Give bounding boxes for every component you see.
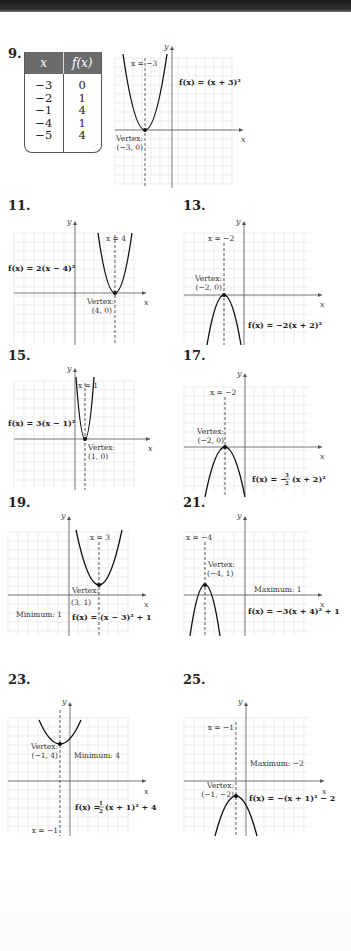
problem-number-25: 25. <box>183 672 206 687</box>
vertex-point <box>143 128 147 132</box>
vertex-coords: (1, 0) <box>88 452 108 461</box>
vertex-label: Vertex: <box>87 443 115 452</box>
vertex-point <box>58 742 62 746</box>
header-fx: f(x) <box>64 52 102 74</box>
graph-problem-11: x = 4 Vertex: (4, 0) f(x) = 2(x − 4)² x … <box>14 225 164 345</box>
maximum-label: Maximum: −2 <box>250 759 304 768</box>
y-axis-label: y <box>163 42 169 51</box>
vertex-label: Vertex: <box>207 560 235 569</box>
table-cell: −3 <box>35 79 52 92</box>
axis-line-label: x = 3 <box>90 533 110 542</box>
svg-text:(x + 1)² + 4: (x + 1)² + 4 <box>105 802 157 812</box>
equation-label: f(x) = 1 2 (x + 1)² + 4 <box>75 800 157 814</box>
minimum-label: Minimum: 1 <box>16 610 62 619</box>
problem-number-23: 23. <box>8 672 31 687</box>
vertex-label: Vertex: <box>194 274 222 283</box>
y-axis-label: y <box>61 697 67 706</box>
table-cell: 4 <box>79 129 86 142</box>
equation-label: f(x) = 3(x − 1)² <box>8 418 76 428</box>
x-axis-label: x <box>144 298 149 307</box>
grid <box>14 381 134 487</box>
y-axis-label: y <box>66 364 72 373</box>
y-axis-label: y <box>236 511 242 520</box>
problem-number-13: 13. <box>183 198 206 213</box>
header-x: x <box>25 52 64 74</box>
svg-text:2: 2 <box>285 480 289 486</box>
equation-label: f(x) = (x + 3)² <box>179 77 241 87</box>
graph-problem-15: x = 1 Vertex: (1, 0) f(x) = 3(x − 1)² x … <box>14 375 164 490</box>
axis-line-label: x = −2 <box>208 234 235 243</box>
axis-line-label: x = −2 <box>210 388 237 397</box>
graph-problem-13: x = −2 Vertex: (−2, 0) f(x) = −2(x + 2)²… <box>184 225 344 345</box>
y-axis-label: y <box>66 217 72 226</box>
graph-problem-23: Vertex: (−1, 4) Minimum: 4 x = −1 f(x) =… <box>8 708 163 843</box>
x-column: −3 −2 −1 −4 −5 <box>25 74 64 152</box>
vertex-label: Vertex: <box>86 297 114 306</box>
svg-text:1: 1 <box>99 800 103 806</box>
table-cell: 4 <box>79 104 86 117</box>
svg-text:f(x) = −: f(x) = − <box>252 474 287 484</box>
x-axis-label: x <box>320 600 325 609</box>
axis-line-label: x = 1 <box>78 381 98 390</box>
svg-text:2: 2 <box>99 808 103 814</box>
equation-label: f(x) = − 3 2 (x + 2)² <box>252 472 326 486</box>
grid <box>184 532 309 636</box>
vertex-point <box>203 583 207 587</box>
minimum-label: Minimum: 4 <box>74 751 120 760</box>
vertex-coords: (−2, 0) <box>196 283 223 292</box>
x-axis-label: x <box>148 444 153 453</box>
axis-line-label: x = 4 <box>106 234 126 243</box>
vertex-coords: (3, 1) <box>71 598 91 607</box>
vertex-label: Vertex: <box>196 427 224 436</box>
graph-problem-19: x = 3 Vertex: (3, 1) Minimum: 1 f(x) = (… <box>8 530 158 645</box>
axis-line-label: x = −1 <box>208 723 234 732</box>
maximum-label: Maximum: 1 <box>254 585 302 594</box>
vertex-coords: (−3, 0) <box>117 143 144 152</box>
fx-column: 0 1 4 1 4 <box>64 74 102 152</box>
vertex-point <box>113 291 117 295</box>
x-axis-label: x <box>241 135 246 144</box>
grid <box>14 233 134 343</box>
x-axis-label: x <box>320 300 325 309</box>
top-bar <box>0 0 351 12</box>
vertex-label: Vertex: <box>30 742 58 751</box>
table-cell: −1 <box>35 104 52 117</box>
equation-label: f(x) = 2(x − 4)² <box>8 263 76 273</box>
graph-problem-9: x = −3 Vertex: (−3, 0) f(x) = (x + 3)² x… <box>115 50 345 190</box>
vertex-coords: (−2, 0) <box>198 436 225 445</box>
equation-label: f(x) = −2(x + 2)² <box>248 320 323 330</box>
problem-number-11: 11. <box>8 198 31 213</box>
graph-problem-17: x = −2 Vertex: (−2, 0) f(x) = − 3 2 (x +… <box>184 375 344 495</box>
vertex-label: Vertex: <box>71 586 99 595</box>
vertex-point <box>83 437 87 441</box>
problem-number-9: 9. <box>8 46 22 61</box>
y-axis-label: y <box>237 697 243 706</box>
vertex-point <box>234 794 238 798</box>
table-header: x f(x) <box>25 52 101 74</box>
vertex-point <box>222 293 226 297</box>
y-axis-label: y <box>235 217 241 226</box>
problem-number-15: 15. <box>8 348 31 363</box>
vertex-label: Vertex: <box>206 781 234 790</box>
problem-number-19: 19. <box>8 495 31 510</box>
vertex-coords: (−1, 4) <box>32 751 59 760</box>
vertex-point <box>223 445 227 449</box>
svg-text:(x + 2)²: (x + 2)² <box>292 474 326 484</box>
blank-page-area <box>0 880 351 951</box>
x-axis-label: x <box>322 787 327 796</box>
grid <box>8 718 130 833</box>
axis-line-label: x = −1 <box>32 826 58 835</box>
vertex-label: Vertex: <box>115 134 143 143</box>
vertex-coords: (4, 0) <box>92 306 112 315</box>
equation-label: f(x) = −3(x + 4)² + 1 <box>248 606 340 616</box>
table-cell: −5 <box>35 129 52 142</box>
problem-number-21: 21. <box>183 495 206 510</box>
value-table: x f(x) −3 −2 −1 −4 −5 0 1 4 1 4 <box>24 52 102 153</box>
axis-line-label: x = −3 <box>131 59 158 68</box>
equation-label: f(x) = (x − 3)² + 1 <box>72 612 152 622</box>
problem-number-17: 17. <box>183 348 206 363</box>
graph-problem-25: x = −1 Maximum: −2 Vertex: (−1, −2) f(x)… <box>184 708 349 843</box>
vertex-coords: (−1, −2) <box>201 790 234 799</box>
x-axis-label: x <box>144 600 149 609</box>
grid <box>184 718 309 833</box>
